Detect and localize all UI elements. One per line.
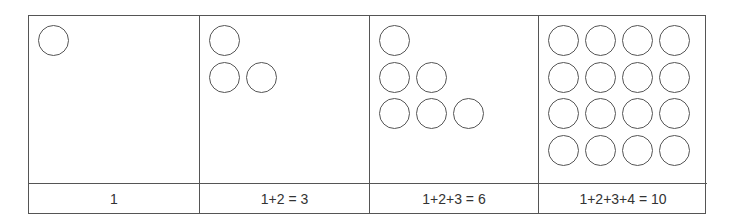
panel-4	[539, 16, 707, 183]
circle	[622, 62, 653, 93]
circle	[622, 135, 653, 166]
circle	[548, 98, 579, 129]
circle	[379, 98, 410, 129]
panel-label: 1	[29, 183, 200, 213]
circle	[209, 25, 240, 56]
panel-label: 1+2 = 3	[200, 183, 370, 213]
circle	[416, 62, 447, 93]
panel-3	[370, 16, 539, 183]
circle	[659, 62, 690, 93]
circle	[585, 62, 616, 93]
panel-label: 1+2+3 = 6	[370, 183, 539, 213]
circle	[548, 135, 579, 166]
circle	[246, 62, 277, 93]
triangular-numbers-table: 11+2 = 31+2+3 = 61+2+3+4 = 10	[28, 15, 706, 214]
circle	[659, 98, 690, 129]
panel-label: 1+2+3+4 = 10	[539, 183, 707, 213]
panel-1	[29, 16, 200, 183]
panel-2	[200, 16, 370, 183]
circle	[585, 135, 616, 166]
circle	[548, 25, 579, 56]
circle	[209, 62, 240, 93]
circle	[379, 62, 410, 93]
circle	[585, 98, 616, 129]
circle	[379, 25, 410, 56]
circle	[659, 135, 690, 166]
circle	[659, 25, 690, 56]
circle	[38, 25, 69, 56]
circle	[548, 62, 579, 93]
circle	[622, 98, 653, 129]
circle	[453, 98, 484, 129]
circle	[416, 98, 447, 129]
circle	[622, 25, 653, 56]
circle	[585, 25, 616, 56]
